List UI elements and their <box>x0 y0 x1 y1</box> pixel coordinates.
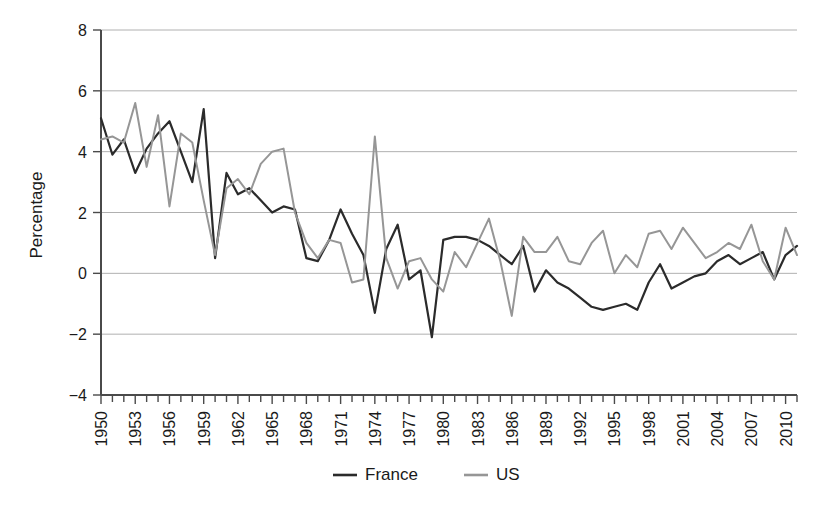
series-line-france <box>101 109 797 337</box>
x-tick-label: 1998 <box>641 411 658 447</box>
x-tick-label: 1965 <box>264 411 281 447</box>
x-tick-label: 1953 <box>127 411 144 447</box>
x-tick-label: 1959 <box>196 411 213 447</box>
x-tick-label: 2007 <box>743 411 760 447</box>
chart-legend: FranceUS <box>333 465 520 484</box>
x-tick-label: 1977 <box>401 411 418 447</box>
y-tick-label: −4 <box>69 387 87 404</box>
x-tick-label: 1983 <box>470 411 487 447</box>
y-tick-label: −2 <box>69 326 87 343</box>
x-tick-label: 1950 <box>93 411 110 447</box>
x-tick-labels: 1950195319561959196219651968197119741977… <box>93 411 795 447</box>
x-tick-label: 1995 <box>606 411 623 447</box>
x-tick-label: 1971 <box>333 411 350 447</box>
x-tick-label: 1986 <box>504 411 521 447</box>
legend-label-france: France <box>365 465 418 484</box>
x-tick-label: 1974 <box>367 411 384 447</box>
series-group <box>101 103 797 337</box>
y-tick-label: 0 <box>78 265 87 282</box>
y-tick-label: 6 <box>78 83 87 100</box>
x-axis: 1950195319561959196219651968197119741977… <box>93 395 797 447</box>
y-axis-label: Percentage <box>27 172 46 259</box>
y-tick-label: 4 <box>78 144 87 161</box>
y-axis: −4−202468 <box>69 22 101 404</box>
y-tick-group: −4−202468 <box>69 22 101 404</box>
x-tick-label: 1968 <box>298 411 315 447</box>
x-tick-label: 1980 <box>435 411 452 447</box>
x-tick-label: 2004 <box>709 411 726 447</box>
x-tick-label: 2010 <box>778 411 795 447</box>
x-tick-label: 1992 <box>572 411 589 447</box>
x-tick-label: 2001 <box>675 411 692 447</box>
chart-container: −4−202468 195019531956195919621965196819… <box>0 0 834 512</box>
x-tick-label: 1962 <box>230 411 247 447</box>
line-chart: −4−202468 195019531956195919621965196819… <box>0 0 834 512</box>
y-tick-label: 2 <box>78 205 87 222</box>
x-tick-label: 1956 <box>161 411 178 447</box>
x-tick-group <box>101 395 797 404</box>
y-tick-label: 8 <box>78 22 87 39</box>
legend-label-us: US <box>496 465 520 484</box>
x-tick-label: 1989 <box>538 411 555 447</box>
